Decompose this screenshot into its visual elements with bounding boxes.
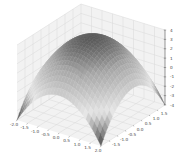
z-tick-label: 3 xyxy=(170,37,173,42)
x-tick-label: -0.5 xyxy=(41,132,50,137)
y-tick-label: -1.5 xyxy=(112,142,121,147)
x-tick-label: -2.0 xyxy=(10,122,19,127)
x-tick-label: 0.5 xyxy=(63,138,70,143)
y-tick-mark xyxy=(117,136,118,137)
y-tick-label: 1.0 xyxy=(153,116,160,121)
y-tick-mark xyxy=(141,120,142,121)
y-tick-label: -0.5 xyxy=(128,132,137,137)
x-tick-label: -1.5 xyxy=(20,125,29,130)
y-tick-label: 1.5 xyxy=(161,111,168,116)
z-tick-label: -3 xyxy=(170,93,175,98)
surface-plot-3d: -2.0-1.5-1.0-0.50.00.51.01.52.0 -1.5-1.0… xyxy=(0,0,193,162)
x-tick-label: 0.0 xyxy=(53,135,60,140)
x-tick-label: 2.0 xyxy=(95,148,102,153)
z-tick-label: -2 xyxy=(170,84,175,89)
y-tick-mark xyxy=(109,141,110,142)
z-tick-label: 4 xyxy=(170,28,173,33)
y-tick-label: -1.0 xyxy=(120,137,129,142)
x-tick-label: -1.0 xyxy=(31,129,40,134)
y-tick-label: 0.0 xyxy=(137,127,144,132)
z-tick-label: 1 xyxy=(170,56,173,61)
z-tick-label: -1 xyxy=(170,74,175,79)
z-tick-label: 2 xyxy=(170,46,173,51)
y-tick-label: 0.5 xyxy=(145,121,152,126)
y-tick-mark xyxy=(157,110,158,111)
x-tick-label: 1.5 xyxy=(84,145,91,150)
z-tick-label: -4 xyxy=(170,103,175,108)
y-tick-mark xyxy=(133,126,134,127)
y-tick-mark xyxy=(149,115,150,116)
y-tick-mark xyxy=(125,131,126,132)
z-axis-ticks: 43210-1-2-3-4 xyxy=(164,28,175,108)
z-tick-label: 0 xyxy=(170,65,173,70)
x-tick-label: 1.0 xyxy=(74,142,81,147)
